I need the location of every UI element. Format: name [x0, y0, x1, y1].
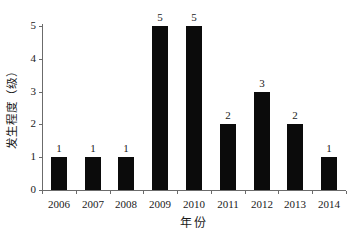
bar-2014: [321, 157, 337, 190]
x-tick-label-2009: 2009: [142, 198, 178, 211]
x-tick-mark: [211, 191, 212, 194]
x-tick-label-2007: 2007: [75, 198, 111, 211]
bar-2007: [85, 157, 101, 190]
bar-value-label-2006: 1: [48, 142, 70, 154]
y-tick-mark: [39, 59, 42, 60]
x-tick-mark: [312, 191, 313, 194]
bar-value-label-2010: 5: [183, 11, 205, 23]
bar-2012: [254, 92, 270, 190]
x-tick-label-2006: 2006: [41, 198, 77, 211]
x-tick-label-2012: 2012: [244, 198, 280, 211]
y-axis-title: 发生程度（级）: [5, 47, 19, 167]
y-tick-mark: [39, 26, 42, 27]
y-tick-label-0: 0: [14, 183, 36, 196]
bar-value-label-2007: 1: [82, 142, 104, 154]
x-tick-mark: [76, 191, 77, 194]
bar-value-label-2012: 3: [251, 77, 273, 89]
y-tick-label-2: 2: [14, 117, 36, 130]
bar-value-label-2009: 5: [149, 11, 171, 23]
x-tick-mark: [177, 191, 178, 194]
x-tick-mark: [143, 191, 144, 194]
x-tick-mark: [42, 191, 43, 194]
y-tick-label-4: 4: [14, 52, 36, 65]
bar-2013: [287, 124, 303, 190]
bar-2006: [51, 157, 67, 190]
x-tick-mark: [245, 191, 246, 194]
y-tick-mark: [39, 157, 42, 158]
y-tick-mark: [39, 124, 42, 125]
bar-value-label-2013: 2: [284, 109, 306, 121]
y-tick-label-5: 5: [14, 19, 36, 32]
bar-2011: [220, 124, 236, 190]
y-tick-mark: [39, 92, 42, 93]
bar-2009: [152, 26, 168, 190]
x-tick-label-2011: 2011: [210, 198, 246, 211]
x-tick-label-2010: 2010: [176, 198, 212, 211]
y-tick-label-3: 3: [14, 85, 36, 98]
x-tick-label-2008: 2008: [108, 198, 144, 211]
x-tick-label-2013: 2013: [277, 198, 313, 211]
x-tick-mark: [346, 191, 347, 194]
x-axis-title: 年份: [164, 216, 224, 230]
x-tick-mark: [278, 191, 279, 194]
bar-chart-figure: 发生程度（级） 年份 01234512006120071200852009520…: [0, 0, 352, 237]
x-tick-label-2014: 2014: [311, 198, 347, 211]
y-tick-label-1: 1: [14, 150, 36, 163]
bar-value-label-2008: 1: [115, 142, 137, 154]
bar-2008: [118, 157, 134, 190]
y-axis-line: [42, 24, 43, 191]
bar-value-label-2014: 1: [318, 142, 340, 154]
x-tick-mark: [110, 191, 111, 194]
x-axis-line: [42, 190, 346, 191]
bar-value-label-2011: 2: [217, 109, 239, 121]
bar-2010: [186, 26, 202, 190]
